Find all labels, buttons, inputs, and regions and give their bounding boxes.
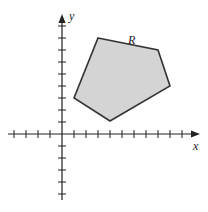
region-label: R (127, 33, 136, 47)
y-axis-label: y (68, 9, 75, 23)
coordinate-plane: R y x (0, 0, 208, 212)
x-axis-label: x (192, 139, 199, 153)
region-r (74, 38, 170, 121)
y-axis-arrow-icon (59, 14, 66, 23)
x-axis-arrow-icon (191, 131, 200, 138)
